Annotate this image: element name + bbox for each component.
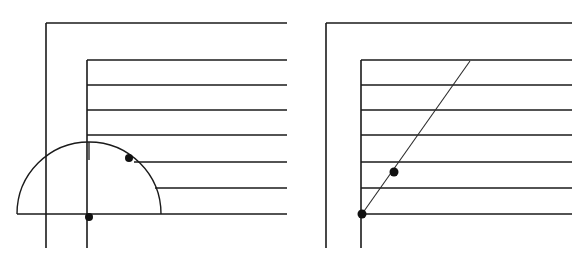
construction-diagram (0, 0, 578, 265)
marker-dot (125, 154, 133, 162)
marker-dot (85, 213, 93, 221)
marker-dot (390, 168, 399, 177)
marker-dot (358, 210, 367, 219)
figure-root (0, 0, 578, 265)
